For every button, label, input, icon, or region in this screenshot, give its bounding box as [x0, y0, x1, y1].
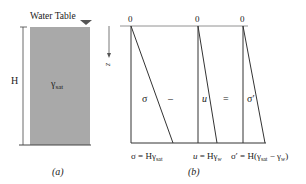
formula-total-stress: σ = Hγsat	[131, 151, 163, 162]
caption-a: (a)	[52, 166, 64, 178]
panel-a: Water Table H γsat (a)	[11, 11, 92, 178]
formula-pore-pressure: u = Hγw	[193, 151, 222, 162]
sigma-label: σ	[142, 93, 148, 104]
equals-sign: =	[223, 93, 229, 104]
u-label: u	[202, 93, 207, 104]
formula-effective-stress: σ′ = H(γsat − γw)	[231, 151, 288, 162]
minus-sign: –	[167, 93, 174, 104]
panel-b: 0 0 0 z σ – u = σ′ σ = Hγsat u = Hγw σ′ …	[104, 14, 288, 178]
height-label: H	[11, 75, 18, 86]
zero-label-u: 0	[195, 14, 200, 24]
sigma-profile	[131, 26, 173, 143]
water-table-triangle-icon	[80, 20, 92, 25]
zero-label-sigma: 0	[128, 14, 133, 24]
sigma-eff-label: σ′	[247, 93, 255, 104]
sigma-eff-profile	[243, 26, 265, 143]
depth-arrow-icon	[107, 53, 111, 58]
caption-b: (b)	[188, 166, 200, 178]
u-profile	[198, 26, 217, 143]
depth-axis-label: z	[104, 62, 113, 67]
zero-label-sigma-eff: 0	[240, 14, 245, 24]
water-table-label: Water Table	[30, 11, 76, 21]
soil-stress-diagram: Water Table H γsat (a) 0 0 0 z σ	[0, 0, 306, 184]
